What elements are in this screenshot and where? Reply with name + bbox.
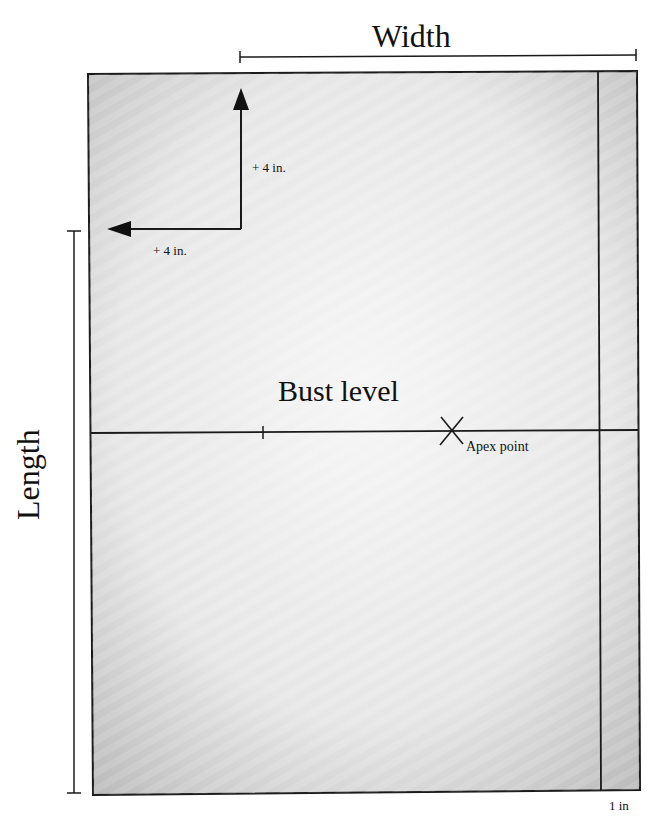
- margin-label: 1 in: [609, 799, 629, 812]
- length-dimension: [67, 231, 81, 793]
- apex-point-label: Apex point: [466, 440, 529, 454]
- up-offset-label: + 4 in.: [252, 161, 286, 174]
- bust-level-label: Bust level: [278, 376, 399, 406]
- length-label: Length: [12, 429, 44, 520]
- width-label: Width: [372, 20, 451, 52]
- left-offset-label: + 4 in.: [153, 244, 187, 257]
- pattern-diagram: [0, 0, 664, 829]
